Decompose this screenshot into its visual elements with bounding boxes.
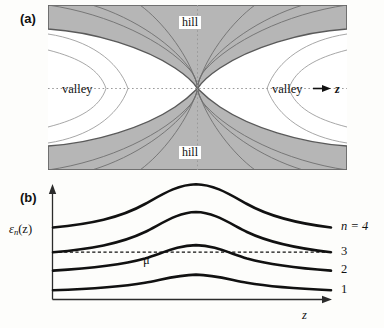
y-axis-label-panel-b: εn(z) [9, 222, 32, 237]
curve-label-n3: 3 [341, 244, 347, 259]
hill-label-top: hill [179, 16, 201, 29]
hill-label-bottom: hill [179, 146, 201, 159]
curve-label-n4: n = 4 [341, 219, 368, 234]
x-axis-label-panel-b: z [302, 308, 307, 323]
energy-curve-n4 [53, 184, 331, 227]
energy-curve-n1 [53, 275, 331, 291]
valley-label-right: valley [272, 82, 303, 97]
x-axis-arrowhead [322, 296, 332, 303]
x-axis [53, 296, 333, 303]
energy-curve-n2 [53, 245, 331, 271]
curve-label-n1: 1 [341, 282, 347, 297]
panel-a-tag: (a) [20, 11, 36, 26]
panel-b-tag: (b) [20, 190, 37, 205]
chemical-potential-label: μ [143, 253, 150, 268]
epsilon-argument: (z) [18, 222, 32, 236]
z-axis-label-panel-a: z [335, 82, 340, 97]
valley-label-left: valley [62, 82, 93, 97]
panel-b-energy-curves [49, 184, 332, 303]
curve-label-n2: 2 [341, 262, 347, 277]
y-axis-arrowhead [49, 184, 56, 194]
figure-root [0, 0, 384, 328]
y-axis [49, 184, 56, 300]
